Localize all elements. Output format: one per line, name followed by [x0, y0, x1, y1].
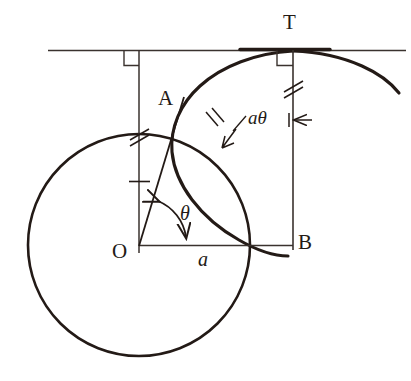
cycloid-curve-group: [172, 51, 399, 256]
arc-length-leader-line: [233, 116, 246, 131]
label-point-o: O: [112, 241, 127, 262]
right-angle-mark-left: [124, 51, 139, 66]
figure-canvas: O A B T a θ aθ: [0, 0, 411, 381]
tangent-line-group: [48, 50, 406, 51]
label-point-t: T: [283, 12, 296, 33]
cycloid-arc-main: [172, 51, 293, 256]
arc-length-annotation-group: [222, 113, 312, 148]
label-angle-theta: θ: [180, 203, 190, 223]
label-point-a: A: [158, 88, 173, 109]
label-point-b: B: [298, 232, 312, 253]
label-arc-length-a-theta: aθ: [248, 108, 267, 127]
arc-length-arrowhead-on-curve: [222, 129, 236, 148]
tick-double-cycloid-arc: [206, 108, 224, 126]
cycloid-arc-right-tail: [293, 51, 399, 93]
label-radius-a: a: [198, 249, 208, 269]
cycloid-diagram-svg: [0, 0, 411, 381]
